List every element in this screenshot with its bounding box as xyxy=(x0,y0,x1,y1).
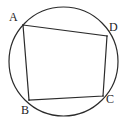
vertex-label-b: B xyxy=(21,104,29,116)
quadrilateral-ABCD xyxy=(23,25,107,100)
vertex-label-a: A xyxy=(9,11,18,23)
vertex-point-c xyxy=(102,95,104,97)
vertex-point-a xyxy=(22,24,24,26)
vertex-label-c: C xyxy=(106,93,114,105)
geometry-figure: A D C B xyxy=(0,0,125,124)
vertex-point-b xyxy=(28,99,30,101)
vertex-point-d xyxy=(106,35,108,37)
vertex-label-d: D xyxy=(109,21,118,33)
